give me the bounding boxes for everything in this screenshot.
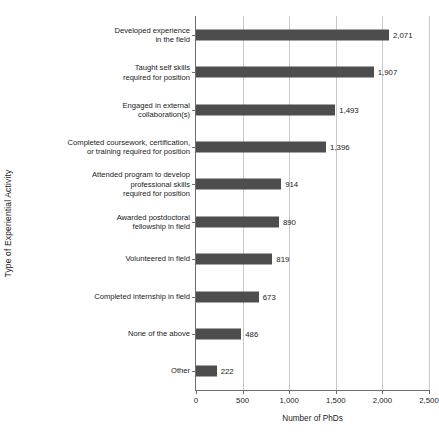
x-axis-tick — [289, 390, 290, 394]
x-axis-tick — [382, 390, 383, 394]
bar — [196, 254, 272, 265]
bar-value-label: 2,071 — [393, 30, 413, 39]
bar — [196, 141, 326, 152]
bar-value-label: 222 — [221, 367, 234, 376]
x-axis-tick-label: 0 — [194, 396, 198, 406]
bar-chart: Type of Experiential Activity Developed … — [0, 0, 439, 447]
bar — [196, 67, 374, 78]
bar — [196, 291, 259, 302]
x-axis-tick — [243, 390, 244, 394]
bar-value-label: 890 — [283, 217, 296, 226]
y-axis-tick-label: Other — [5, 367, 190, 376]
bar — [196, 328, 241, 339]
x-axis-tick — [196, 390, 197, 394]
y-axis-tick-label: Completed coursework, certification, or … — [5, 137, 190, 156]
y-axis-tick-label: Awarded postdoctoral fellowship in field — [5, 212, 190, 231]
bar-value-label: 914 — [285, 180, 298, 189]
plot-area: Developed experience in the field2,071Ta… — [196, 16, 429, 390]
bar-value-label: 1,396 — [330, 142, 350, 151]
bar — [196, 366, 217, 377]
x-axis-title: Number of PhDs — [196, 414, 429, 423]
x-axis-tick-label: 1,000 — [279, 396, 299, 406]
y-axis-tick-label: Developed experience in the field — [5, 25, 190, 44]
x-axis-tick — [429, 390, 430, 394]
bar-value-label: 819 — [276, 255, 289, 264]
bar-value-label: 1,493 — [339, 105, 359, 114]
bar-value-label: 673 — [263, 292, 276, 301]
bar-value-label: 486 — [245, 329, 258, 338]
y-axis-tick-label: Taught self skills required for position — [5, 63, 190, 82]
bar — [196, 179, 281, 190]
x-axis-line — [195, 390, 430, 391]
bar — [196, 216, 279, 227]
y-axis-tick-label: Attended program to develop professional… — [5, 170, 190, 198]
y-axis-tick-label: Volunteered in field — [5, 254, 190, 263]
x-axis-tick-label: 2,500 — [419, 396, 439, 406]
y-axis-tick-label: Completed internship in field — [5, 292, 190, 301]
bar-value-label: 1,907 — [378, 68, 398, 77]
x-axis-tick-label: 1,500 — [326, 396, 346, 406]
x-axis-tick-label: 2,000 — [373, 396, 393, 406]
gridline — [429, 16, 430, 390]
y-axis-tick-label: None of the above — [5, 329, 190, 338]
bar — [196, 29, 389, 40]
y-axis-tick-label: Engaged in external collaboration(s) — [5, 100, 190, 119]
x-axis-tick-label: 500 — [236, 396, 249, 406]
x-axis-tick — [336, 390, 337, 394]
bar — [196, 104, 335, 115]
